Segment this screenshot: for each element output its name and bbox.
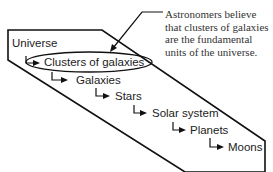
- node-moons: Moons: [228, 141, 263, 153]
- annotation-text: Astronomers believe that clusters of gal…: [165, 8, 273, 58]
- node-solar-system: Solar system: [152, 107, 218, 119]
- annotation-line: Astronomers believe: [165, 8, 273, 21]
- node-universe: Universe: [12, 37, 57, 49]
- annotation-line: are the fundamental: [165, 33, 273, 46]
- node-stars: Stars: [115, 90, 142, 102]
- annotation-line: units of the universe.: [165, 46, 273, 59]
- node-clusters-of-galaxies: Clusters of galaxies: [44, 56, 144, 68]
- node-planets: Planets: [190, 124, 228, 136]
- annotation-line: that clusters of galaxies: [165, 21, 273, 34]
- node-galaxies: Galaxies: [76, 74, 121, 86]
